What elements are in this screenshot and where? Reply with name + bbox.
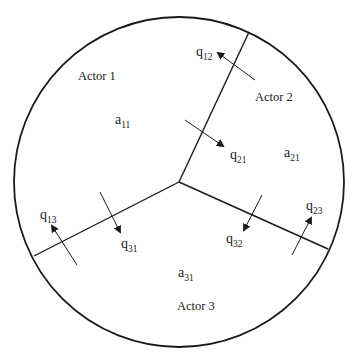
param-label-a21: a21 [284, 145, 300, 163]
flow-label-q12: q12 [196, 44, 213, 62]
flow-arrow-q21 [185, 120, 223, 146]
actor-label-2: Actor 2 [255, 90, 293, 104]
flow-label-q23: q23 [306, 198, 323, 216]
actor-flow-diagram: q12q21q13q31q32q23 Actor 1a11Actor 2a21A… [0, 0, 354, 361]
flow-arrow-q31 [100, 192, 120, 232]
flow-label-q31: q31 [121, 236, 138, 254]
boundary-2-3 [179, 182, 328, 249]
actor-label-1: Actor 1 [78, 69, 116, 83]
region-labels: Actor 1a11Actor 2a21Actor 3a31 [78, 69, 300, 313]
region-boundaries [34, 32, 328, 256]
flow-label-q32: q32 [226, 231, 243, 249]
actor-label-3: Actor 3 [177, 299, 215, 313]
flow-arrow-q23 [292, 218, 311, 255]
flow-label-q13: q13 [40, 207, 57, 225]
param-label-a31: a31 [178, 265, 194, 283]
param-label-a11: a11 [115, 112, 131, 130]
flow-arrow-q12 [218, 53, 255, 80]
flow-label-q21: q21 [230, 147, 247, 165]
